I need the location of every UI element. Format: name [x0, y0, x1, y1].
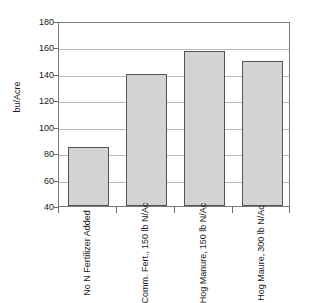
y-axis-tick-label: 160	[28, 44, 54, 53]
x-axis-label-line: 150 lb N/Ac	[198, 202, 209, 249]
x-axis-label-line: Hog Maure,	[256, 253, 267, 300]
x-axis-category-label: Comm. Fert.,150 lb N/Ac	[116, 213, 174, 292]
x-axis-label-line: Added	[82, 210, 93, 236]
y-axis-title: bu/Acre	[12, 62, 22, 132]
y-axis-tick-label: 180	[28, 18, 54, 27]
x-axis-label-line: 150 lb N/Ac	[140, 202, 151, 249]
y-axis-tick-label: 80	[28, 150, 54, 159]
bar	[126, 74, 167, 206]
x-axis-label-line: Comm. Fert.,	[140, 251, 151, 303]
x-axis-category-label: Hog Manure,150 lb N/Ac	[174, 213, 232, 292]
y-axis-tick-label: 120	[28, 97, 54, 106]
y-axis-tick-label: 40	[28, 203, 54, 212]
bar	[242, 61, 283, 206]
y-axis-tick-labels: 406080100120140160180	[28, 22, 54, 207]
bar	[184, 51, 225, 206]
x-axis-category-labels: No N FertilizerAddedComm. Fert.,150 lb N…	[58, 213, 290, 292]
y-axis-tick-label: 140	[28, 70, 54, 79]
x-axis-label-line: No N Fertilizer	[82, 238, 93, 296]
plot-area	[58, 22, 290, 207]
y-axis-tick-label: 100	[28, 123, 54, 132]
y-axis-tick-label: 60	[28, 176, 54, 185]
x-axis-label-line: 300 lb N/Ac	[256, 205, 267, 252]
x-axis-category-label: Hog Maure,300 lb N/Ac	[232, 213, 290, 292]
x-axis-category-label: No N FertilizerAdded	[58, 213, 116, 292]
bar	[68, 147, 109, 206]
bars-group	[59, 23, 289, 206]
x-axis-label-line: Hog Manure,	[198, 251, 209, 303]
